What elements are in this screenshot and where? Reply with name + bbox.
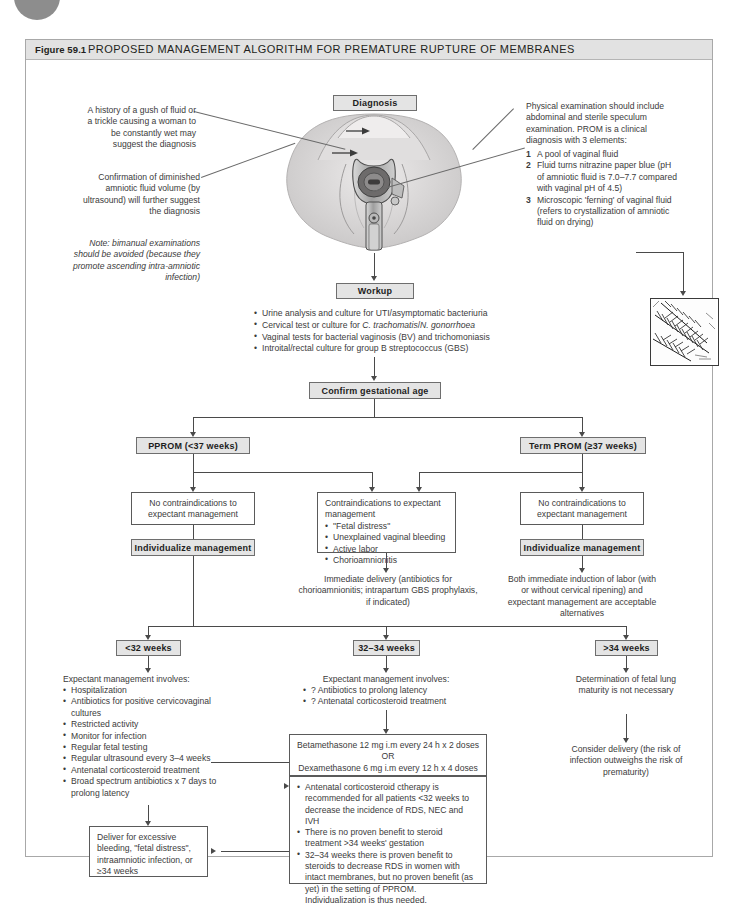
- box-no-contraindications-right: No contraindications to expectant manage…: [520, 492, 644, 525]
- connector-term-left-down: [419, 472, 420, 487]
- leader-physical-exam: [472, 108, 514, 150]
- text-both-immediate: Both immediate induction of labor (with …: [505, 574, 659, 620]
- arrow-gt34-content: [623, 668, 629, 673]
- text-determination-lung-maturity: Determination of fetal lung maturity is …: [566, 674, 686, 697]
- workup-item: Cervical test or culture for C. trachoma…: [254, 320, 544, 332]
- connector-gt34-down: [626, 656, 627, 668]
- speculum-examination-illustration: [274, 98, 474, 273]
- node-pprom[interactable]: PPROM (<37 weeks): [136, 437, 250, 454]
- ferning-leader-arrow: [680, 291, 686, 296]
- box-text: No contraindications to expectant manage…: [132, 493, 254, 526]
- steroid-note-item: Antenatal corticosteroid ctherapy is rec…: [297, 782, 479, 827]
- annotation-physical-exam-intro: Physical examination should include abdo…: [526, 101, 681, 147]
- left-column-list: Hospitalization Antibiotics for positive…: [63, 685, 233, 799]
- left-column-item: Broad spectrum antibiotics x 7 days to p…: [63, 776, 233, 799]
- box-text: No contraindications to expectant manage…: [521, 493, 643, 526]
- workup-item: Introital/rectal culture for group B str…: [254, 343, 544, 355]
- arrow-individualize-both: [579, 568, 585, 573]
- dosing-line: Dexamethasone 6 mg i.m every 12 h x 4 do…: [297, 763, 479, 774]
- connector-individualize-both: [582, 556, 583, 568]
- contra-item: Unexplained vaginal bleeding: [325, 532, 448, 543]
- dosing-line: OR: [297, 751, 479, 762]
- arrow-diagnosis-workup: [371, 276, 377, 281]
- connector-pprom-left-down: [193, 472, 194, 487]
- connector-weeks-horizontal: [148, 626, 626, 627]
- arrow-lt32-content: [145, 668, 151, 673]
- connector-weeks-right: [626, 626, 627, 635]
- dosing-line: Betamethasone 12 mg i.m every 24 h x 2 d…: [297, 740, 479, 751]
- figure-title: PROPOSED MANAGEMENT ALGORITHM FOR PREMAT…: [88, 43, 575, 55]
- node-individualize-right[interactable]: Individualize management: [520, 539, 644, 556]
- text-immediate-delivery: Immediate delivery (antibiotics for chor…: [298, 574, 478, 608]
- arrow-workup-confirm: [371, 376, 377, 381]
- figure-number: Figure 59.1: [35, 44, 86, 55]
- connector-term-right-down: [582, 472, 583, 487]
- connector-term-split: [419, 472, 583, 473]
- contra-title: Contraindications to expectant managemen…: [325, 498, 448, 521]
- annotation-prom-elements: 1A pool of vaginal fluid 2Fluid turns ni…: [526, 149, 678, 229]
- annotation-confirmation: Confirmation of diminished amniotic flui…: [78, 172, 200, 218]
- node-gt34-weeks[interactable]: >34 weeks: [595, 640, 658, 656]
- ferning-leader-horizontal: [636, 252, 683, 253]
- connector-3234-down: [386, 656, 387, 668]
- steroid-note-list: Antenatal corticosteroid ctherapy is rec…: [297, 782, 479, 906]
- connector-split-left: [193, 417, 194, 432]
- connector-nocontra-individualize-left: [193, 525, 194, 539]
- text-consider-delivery: Consider delivery (the risk of infection…: [565, 744, 687, 778]
- annotation-history: A history of a gush of fluid or a trickl…: [86, 105, 196, 151]
- ferning-leader-vertical: [683, 252, 684, 291]
- prom-element-item: 1A pool of vaginal fluid: [526, 149, 678, 160]
- connector-individualize-left-down: [193, 556, 194, 626]
- connector-pprom-mid-down: [372, 472, 373, 487]
- connector-workup-confirm: [374, 357, 375, 376]
- left-column-item: Regular fetal testing: [63, 742, 233, 753]
- box-steroid-dosing: Betamethasone 12 mg i.m every 24 h x 2 d…: [289, 734, 487, 776]
- connector-left-deliver: [148, 805, 149, 821]
- left-column-item: Regular ultrasound every 3–4 weeks: [63, 753, 233, 764]
- node-term-prom[interactable]: Term PROM (≥37 weeks): [520, 437, 646, 454]
- box-deliver-for-excessive: Deliver for excessive bleeding, "fetal d…: [89, 826, 208, 877]
- prom-element-item: 3Microscopic 'ferning' of vaginal fluid …: [526, 195, 678, 229]
- left-column-item: Antenatal corticosteroid treatment: [63, 765, 233, 776]
- item-number: 1: [526, 149, 531, 160]
- annotation-note: Note: bimanual examinations should be av…: [71, 238, 200, 284]
- connector-diagnosis-workup: [374, 253, 375, 276]
- item-number: 2: [526, 160, 531, 171]
- middle-column-item: ? Antibiotics to prolong latency: [303, 685, 481, 696]
- node-individualize-left[interactable]: Individualize management: [131, 539, 255, 556]
- box-text: Antenatal corticosteroid ctherapy is rec…: [290, 777, 486, 907]
- connector-term-down: [582, 454, 583, 472]
- connector-weeks-mid: [386, 626, 387, 635]
- workup-item: Vaginal tests for bacterial vaginosis (B…: [254, 332, 544, 344]
- left-column-item: Restricted activity: [63, 719, 233, 730]
- box-contraindications: Contraindications to expectant managemen…: [317, 492, 456, 553]
- steroid-note-item: There is no proven benefit to steroid tr…: [297, 827, 479, 850]
- node-diagnosis[interactable]: Diagnosis: [333, 95, 417, 111]
- node-lt32-weeks[interactable]: <32 weeks: [116, 640, 181, 656]
- box-steroid-notes: Antenatal corticosteroid ctherapy is rec…: [289, 776, 487, 884]
- connector-contra-delivery: [386, 553, 387, 568]
- workup-item: Urine analysis and culture for UTI/asymp…: [254, 308, 544, 320]
- arrow-contra-delivery: [383, 568, 389, 573]
- connector-pprom-split: [193, 472, 372, 473]
- arrow-right-consider: [623, 738, 629, 743]
- connector-pprom-down: [193, 454, 194, 472]
- middle-column-item: ? Antenatal corticosteroid treatment: [303, 696, 481, 707]
- middle-column-list: ? Antibiotics to prolong latency ? Anten…: [303, 685, 481, 708]
- connector-nocontra-individualize-right: [582, 525, 583, 539]
- steroid-note-item: 32–34 weeks there is proven benefit to s…: [297, 850, 479, 906]
- box-text: Deliver for excessive bleeding, "fetal d…: [90, 827, 207, 882]
- connector-middle-steroid: [386, 710, 387, 729]
- prom-element-item: 2Fluid turns nitrazine paper blue (pH of…: [526, 160, 678, 194]
- figure-frame: Figure 59.1 PROPOSED MANAGEMENT ALGORITH…: [25, 39, 713, 857]
- diagram-canvas: A history of a gush of fluid or a trickl…: [26, 60, 712, 857]
- ferning-micrograph: [650, 298, 719, 366]
- connector-right-consider: [626, 714, 627, 738]
- arrow-3234-content: [383, 668, 389, 673]
- node-32-34-weeks[interactable]: 32–34 weeks: [353, 640, 420, 656]
- node-workup[interactable]: Workup: [336, 283, 414, 299]
- box-text: Betamethasone 12 mg i.m every 24 h x 2 d…: [290, 735, 486, 779]
- connector-split-right: [582, 417, 583, 432]
- connector-split-horizontal: [193, 417, 582, 418]
- node-confirm-gestational-age[interactable]: Confirm gestational age: [309, 382, 441, 399]
